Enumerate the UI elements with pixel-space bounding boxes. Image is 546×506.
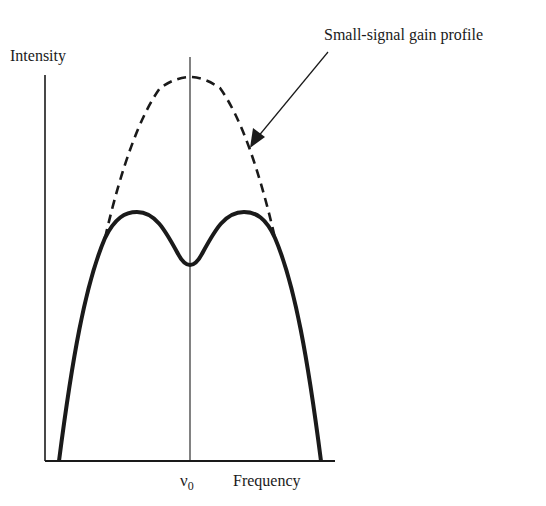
annotation-label: Small-signal gain profile — [324, 26, 483, 44]
annotation-arrow-line — [257, 52, 328, 138]
center-frequency-label: ν0 — [180, 471, 194, 493]
x-axis-label: Frequency — [233, 472, 301, 490]
y-axis-label: Intensity — [10, 47, 66, 65]
gain-saturation-diagram: Intensity Small-signal gain profile Freq… — [0, 0, 546, 506]
nu-subscript: 0 — [188, 479, 194, 493]
